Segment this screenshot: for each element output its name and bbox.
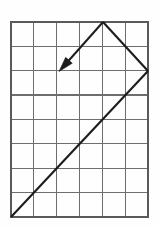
vector-grid-figure xyxy=(0,0,159,227)
vector-diagram-svg xyxy=(0,0,159,227)
